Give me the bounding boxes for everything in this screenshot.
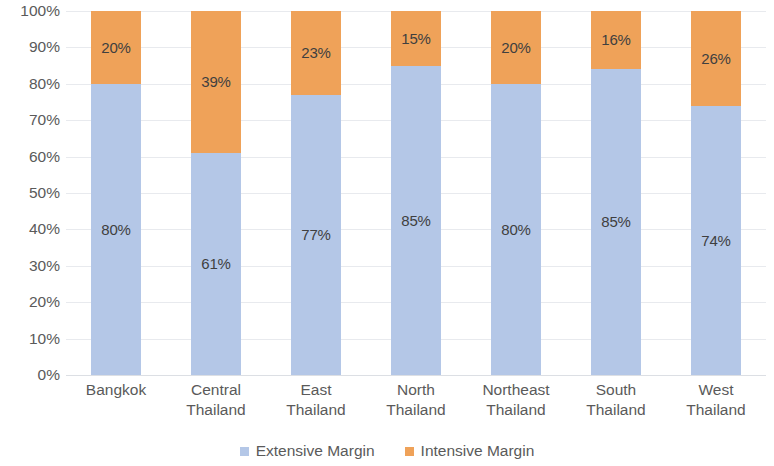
- x-axis-tick-line1: Bangkok: [86, 381, 146, 398]
- y-axis-tick-label: 30%: [0, 258, 60, 274]
- legend-item[interactable]: Intensive Margin: [405, 443, 535, 459]
- y-axis-tick-label: 80%: [0, 76, 60, 92]
- plot-area: 20%80%39%61%23%77%15%85%20%80%16%85%26%7…: [66, 11, 766, 375]
- y-axis-tick-label: 90%: [0, 40, 60, 56]
- legend-label: Intensive Margin: [421, 443, 535, 459]
- bar-segment-intensive[interactable]: 39%: [191, 11, 241, 153]
- bar-column[interactable]: 15%85%: [391, 11, 441, 375]
- x-axis-tick-line1: Northeast: [482, 381, 549, 398]
- bar-column[interactable]: 20%80%: [91, 11, 141, 375]
- x-axis-tick-line2: Thailand: [568, 400, 664, 420]
- bar-value-label: 26%: [701, 51, 730, 66]
- x-axis-tick-label: CentralThailand: [168, 380, 264, 420]
- bar-value-label: 85%: [601, 214, 630, 229]
- bar-column[interactable]: 26%74%: [691, 11, 741, 375]
- chart-legend: Extensive MarginIntensive Margin: [0, 440, 774, 462]
- x-axis-tick-label: Bangkok: [68, 380, 164, 400]
- x-axis-tick-line2: Thailand: [368, 400, 464, 420]
- stacked-bar-chart: 0%10%20%30%40%50%60%70%80%90%100% 20%80%…: [0, 0, 774, 466]
- legend-item[interactable]: Extensive Margin: [240, 443, 375, 459]
- bar-value-label: 80%: [501, 222, 530, 237]
- bar-value-label: 16%: [601, 32, 630, 47]
- bar-column[interactable]: 16%85%: [591, 11, 641, 375]
- bar-value-label: 61%: [201, 256, 230, 271]
- bar-segment-extensive[interactable]: 61%: [191, 153, 241, 375]
- y-axis-tick-label: 20%: [0, 294, 60, 310]
- y-axis-tick-label: 0%: [0, 367, 60, 383]
- x-axis-tick-line2: Thailand: [468, 400, 564, 420]
- x-axis-tick-line1: East: [300, 381, 331, 398]
- bar-segment-intensive[interactable]: 20%: [491, 11, 541, 84]
- y-axis-tick-label: 50%: [0, 185, 60, 201]
- x-axis-tick-label: NorthThailand: [368, 380, 464, 420]
- bar-segment-intensive[interactable]: 20%: [91, 11, 141, 84]
- bar-column[interactable]: 23%77%: [291, 11, 341, 375]
- x-axis-tick-label: NortheastThailand: [468, 380, 564, 420]
- bar-segment-extensive[interactable]: 85%: [391, 66, 441, 375]
- bar-segment-intensive[interactable]: 16%: [591, 11, 641, 69]
- x-axis-tick-line1: North: [397, 381, 435, 398]
- gridline: [66, 375, 766, 376]
- x-axis: BangkokCentralThailandEastThailandNorthT…: [66, 380, 766, 428]
- bar-segment-extensive[interactable]: 77%: [291, 95, 341, 375]
- x-axis-tick-line1: South: [596, 381, 637, 398]
- y-axis-tick-label: 40%: [0, 222, 60, 238]
- x-axis-tick-line2: Thailand: [168, 400, 264, 420]
- bar-segment-extensive[interactable]: 74%: [691, 106, 741, 375]
- x-axis-tick-line1: West: [698, 381, 733, 398]
- bar-value-label: 80%: [101, 222, 130, 237]
- y-axis-tick-label: 100%: [0, 3, 60, 19]
- bar-column[interactable]: 20%80%: [491, 11, 541, 375]
- bar-value-label: 77%: [301, 227, 330, 242]
- bar-segment-intensive[interactable]: 23%: [291, 11, 341, 95]
- bar-value-label: 23%: [301, 45, 330, 60]
- bar-value-label: 20%: [501, 40, 530, 55]
- x-axis-tick-line2: Thailand: [268, 400, 364, 420]
- legend-label: Extensive Margin: [256, 443, 375, 459]
- y-axis-tick-label: 60%: [0, 149, 60, 165]
- x-axis-tick-label: SouthThailand: [568, 380, 664, 420]
- bar-value-label: 85%: [401, 213, 430, 228]
- legend-swatch-icon: [405, 447, 414, 456]
- x-axis-tick-label: EastThailand: [268, 380, 364, 420]
- bar-value-label: 20%: [101, 40, 130, 55]
- bar-segment-extensive[interactable]: 85%: [591, 69, 641, 375]
- bar-value-label: 15%: [401, 31, 430, 46]
- bar-segment-extensive[interactable]: 80%: [91, 84, 141, 375]
- bar-segment-intensive[interactable]: 26%: [691, 11, 741, 106]
- bar-value-label: 74%: [701, 233, 730, 248]
- y-axis-tick-label: 70%: [0, 112, 60, 128]
- bar-group: 20%80%39%61%23%77%15%85%20%80%16%85%26%7…: [66, 11, 766, 375]
- legend-swatch-icon: [240, 447, 249, 456]
- x-axis-tick-line2: Thailand: [668, 400, 764, 420]
- x-axis-tick-label: WestThailand: [668, 380, 764, 420]
- x-axis-tick-line1: Central: [191, 381, 241, 398]
- bar-value-label: 39%: [201, 74, 230, 89]
- y-axis: 0%10%20%30%40%50%60%70%80%90%100%: [0, 0, 64, 386]
- bar-segment-extensive[interactable]: 80%: [491, 84, 541, 375]
- bar-segment-intensive[interactable]: 15%: [391, 11, 441, 66]
- bar-column[interactable]: 39%61%: [191, 11, 241, 375]
- y-axis-tick-label: 10%: [0, 331, 60, 347]
